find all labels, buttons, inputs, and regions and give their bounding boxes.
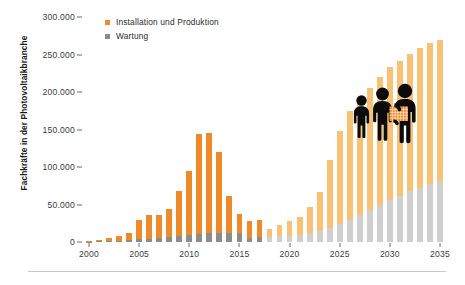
bar-segment-wartung-2018: [267, 237, 273, 242]
bar-2010: [186, 171, 192, 242]
bar-segment-wartung-2013: [216, 233, 222, 242]
x-axis-tick-2030: 2030: [380, 242, 400, 259]
bar-segment-installation-2017: [257, 220, 263, 238]
x-axis-tick-2015: 2015: [229, 242, 249, 259]
y-axis-title: Fachkräfte in der Photovoltaikbranche: [19, 13, 29, 213]
bar-segment-wartung-2002: [106, 241, 112, 242]
bar-segment-wartung-2032: [407, 191, 413, 242]
bar-segment-wartung-2017: [257, 237, 263, 242]
bar-segment-wartung-2014: [226, 233, 232, 242]
x-axis-tick-2020: 2020: [280, 242, 300, 259]
bar-2011: [196, 134, 202, 242]
y-axis-tick-150000: 150.000: [43, 125, 84, 135]
bar-2017: [257, 220, 263, 243]
bar-segment-installation-2034: [427, 43, 433, 184]
bar-segment-installation-2021: [297, 217, 303, 235]
bar-2014: [226, 196, 232, 242]
bar-segment-wartung-2027: [357, 215, 363, 242]
x-tick-mark-icon: [189, 243, 190, 247]
y-tick-dash-icon: [77, 54, 82, 55]
bar-segment-installation-2014: [226, 196, 232, 232]
x-tick-label: 2035: [430, 249, 450, 259]
x-tick-label: 2010: [179, 249, 199, 259]
bar-2024: [327, 160, 333, 242]
x-tick-label: 2030: [380, 249, 400, 259]
bar-segment-wartung-2023: [317, 231, 323, 242]
bar-segment-installation-2007: [156, 215, 162, 238]
bar-segment-wartung-2011: [196, 234, 202, 242]
bar-segment-wartung-2015: [237, 233, 243, 242]
bar-2034: [427, 43, 433, 242]
bar-segment-installation-2013: [216, 152, 222, 233]
x-tick-mark-icon: [389, 243, 390, 247]
bar-2016: [247, 221, 253, 242]
x-tick-mark-icon: [439, 243, 440, 247]
x-tick-mark-icon: [88, 243, 89, 247]
person-large-icon: [390, 84, 416, 144]
bar-2004: [126, 233, 132, 242]
y-tick-dash-icon: [77, 92, 82, 93]
x-axis-tick-2035: 2035: [430, 242, 450, 259]
bar-2020: [287, 221, 293, 242]
bar-2015: [237, 214, 243, 242]
y-axis-tick-100000: 100.000: [43, 162, 84, 172]
bar-2022: [307, 207, 313, 242]
bar-segment-installation-2002: [106, 238, 112, 241]
y-axis-tick-250000: 250.000: [43, 50, 84, 60]
bar-segment-wartung-2021: [297, 235, 303, 242]
bar-segment-wartung-2026: [347, 220, 353, 243]
bar-2005: [136, 220, 142, 242]
y-tick-dash-icon: [77, 129, 82, 130]
x-tick-label: 2025: [330, 249, 350, 259]
bar-segment-installation-2004: [126, 233, 132, 240]
bar-segment-installation-2023: [317, 192, 323, 231]
bar-2008: [166, 209, 172, 242]
bar-segment-installation-2019: [277, 225, 283, 237]
bar-2013: [216, 152, 222, 242]
x-axis-tick-2010: 2010: [179, 242, 199, 259]
bar-segment-installation-2010: [186, 171, 192, 235]
bar-2003: [116, 236, 122, 242]
bar-segment-wartung-2022: [307, 233, 313, 242]
bar-2018: [267, 229, 273, 243]
bar-segment-installation-2035: [437, 40, 443, 182]
bar-2007: [156, 215, 162, 242]
bar-segment-wartung-2035: [437, 181, 443, 242]
y-tick-dash-icon: [77, 167, 82, 168]
bar-segment-installation-2018: [267, 229, 273, 237]
bar-segment-installation-2005: [136, 220, 142, 239]
bar-2019: [277, 225, 283, 242]
bar-2035: [437, 40, 443, 243]
bar-segment-wartung-2030: [387, 200, 393, 242]
bar-segment-installation-2012: [206, 133, 212, 233]
person-small-icon: [354, 95, 369, 138]
bar-segment-wartung-2007: [156, 238, 162, 242]
y-tick-dash-icon: [77, 17, 82, 18]
bar-segment-installation-2008: [166, 209, 172, 238]
bar-segment-wartung-2025: [337, 224, 343, 242]
bar-segment-wartung-2010: [186, 235, 192, 242]
x-axis-tick-2000: 2000: [79, 242, 99, 259]
x-axis-tick-2005: 2005: [129, 242, 149, 259]
bar-2002: [106, 238, 112, 242]
bar-segment-wartung-2008: [166, 237, 172, 242]
x-tick-label: 2005: [129, 249, 149, 259]
x-tick-label: 2020: [280, 249, 300, 259]
bar-2012: [206, 133, 212, 242]
bar-segment-wartung-2003: [116, 241, 122, 242]
x-tick-label: 2015: [229, 249, 249, 259]
bar-segment-installation-2022: [307, 207, 313, 233]
x-tick-mark-icon: [289, 243, 290, 247]
bar-segment-wartung-2033: [417, 188, 423, 242]
bar-segment-installation-2024: [327, 160, 333, 228]
bar-segment-installation-2006: [146, 215, 152, 239]
bar-segment-wartung-2029: [377, 205, 383, 242]
bar-segment-installation-2015: [237, 214, 243, 232]
bar-segment-installation-2016: [247, 221, 253, 238]
x-tick-mark-icon: [239, 243, 240, 247]
x-tick-mark-icon: [139, 243, 140, 247]
bar-2021: [297, 217, 303, 243]
bar-2023: [317, 192, 323, 242]
worker-pictograms-icon: [349, 83, 421, 145]
bar-segment-wartung-2028: [367, 210, 373, 242]
